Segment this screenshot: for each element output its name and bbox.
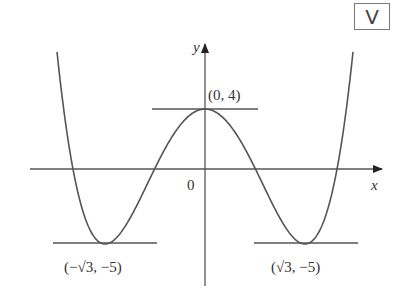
origin-label: 0 xyxy=(187,178,195,193)
y-axis-label: y xyxy=(193,40,200,55)
left-min-label: (−√3, −5) xyxy=(64,260,122,275)
x-axis-label: x xyxy=(371,178,378,193)
right-min-label: (√3, −5) xyxy=(271,260,320,275)
graph xyxy=(0,0,403,302)
max-point-label: (0, 4) xyxy=(208,88,241,103)
